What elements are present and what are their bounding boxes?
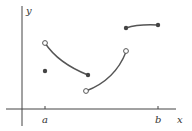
filled-endpoint: [156, 23, 160, 27]
y-axis-label: y: [25, 5, 32, 16]
curve-segment-3: [126, 25, 158, 28]
open-endpoint: [84, 89, 89, 94]
curve-segment-1: [45, 43, 88, 75]
x-axis-label: x: [177, 114, 183, 125]
curve-segment-2: [86, 52, 126, 91]
filled-endpoint: [124, 26, 128, 30]
open-endpoint: [43, 41, 48, 46]
isolated-filled-point: [43, 69, 47, 73]
filled-endpoint: [86, 73, 90, 77]
tick-label-b: b: [155, 114, 161, 125]
function-graph: y x a b: [0, 0, 192, 131]
tick-label-a: a: [42, 114, 48, 125]
open-endpoint: [124, 49, 129, 54]
